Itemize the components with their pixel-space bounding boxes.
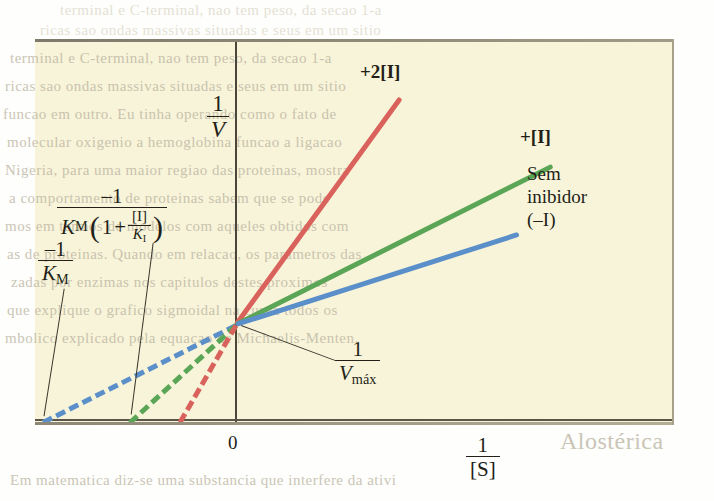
origin-label: 0 [228,432,238,454]
vmax-numerator: 1 [335,338,380,360]
km-app-numerator: –1 [57,185,167,207]
km-app-one: 1 [102,216,113,238]
km-app-den-k: K [61,216,75,238]
no-inhibitor-line-2: inibidor [527,185,587,208]
km-app-i-den-k: K [133,226,143,242]
y-axis-label-numerator: 1 [207,92,229,116]
km-app-i-denominator: KI [128,225,151,244]
ghost-panel-3: funcao em outro. Eu tinha operando como … [3,106,337,123]
km-app-den-sub: M [75,219,88,234]
km-app-paren-open: ( [90,211,100,243]
series-label-two-inhibitor: +2[I] [360,61,400,83]
km-app-paren-close: ) [153,211,163,243]
ghost-line-top-1: terminal e C-terminal, nao tem peso, da … [60,2,382,19]
x-axis-label-denominator: [S] [466,456,500,480]
series-label-one-inhibitor: +[I] [520,126,551,148]
series-line-two-inhibitor [234,97,403,326]
ghost-footer-right: Alostérica [560,428,664,455]
ghost-footer-bottom: Em matematica diz-se uma substancia que … [10,472,396,489]
ghost-panel-2: ricas sao ondas massivas situadas e seus… [5,78,346,95]
label-one-over-vmax: 1 Vmáx [335,338,380,387]
leader-line-vmax [241,325,335,361]
vmax-denominator: Vmáx [335,360,380,387]
series-label-no-inhibitor: Sem inibidor (–I) [527,162,587,232]
ghost-panel-11: mbolico explicado pela equacao de Michae… [5,330,359,347]
km-app-plus: + [114,216,126,238]
x-axis-label: 1 [S] [466,434,500,480]
vmax-den-sub: máx [352,371,377,387]
label-neg-one-over-km-apparent: –1 KM ( 1 + [I] KI ) [57,185,167,244]
y-axis-line [235,42,237,422]
x-axis-label-numerator: 1 [466,434,500,456]
leader-line-km-apparent [130,243,153,415]
no-inhibitor-line-1: Sem [527,162,587,185]
ghost-line-top-2: ricas sao ondas massivas situadas e seus… [40,22,381,39]
series-line-no-inhibitor [235,232,519,327]
vmax-den-v: V [339,361,352,385]
no-inhibitor-line-3: (–I) [527,208,587,231]
leader-line-km [43,289,65,417]
km-den-sub: M [56,271,69,287]
y-axis-label-denominator: V [207,116,229,142]
km-app-i-den-sub: I [143,232,146,243]
ghost-panel-4: molecular oxigenio a hemoglobina funcao … [7,134,342,151]
ghost-panel-5: Nigeria, para uma maior regiao das prote… [5,162,350,179]
km-den-k: K [42,261,56,285]
km-app-i-numerator: [I] [128,209,151,225]
ghost-panel-1: terminal e C-terminal, nao tem peso, da … [10,50,332,67]
km-app-denominator: KM ( 1 + [I] KI ) [57,207,167,244]
y-axis-label: 1 V [207,92,229,142]
panel-right-border [672,39,674,425]
chart-plot-area: terminal e C-terminal, nao tem peso, da … [35,42,672,422]
series-line-one-inhibitor [235,164,554,327]
km-denominator: KM [38,260,73,287]
label-neg-one-over-km: –1 KM [38,238,73,287]
